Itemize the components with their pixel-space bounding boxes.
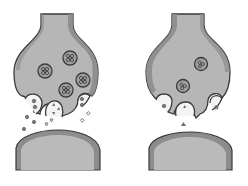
vesicle	[195, 58, 208, 71]
diagram-svg	[0, 0, 248, 186]
right-released-molecules	[181, 122, 186, 126]
synapse-diagram	[0, 0, 248, 186]
vesicle	[177, 80, 190, 93]
vesicle	[63, 51, 77, 65]
left-synapse	[14, 14, 100, 170]
right-postsynaptic-cell	[149, 132, 232, 170]
vesicle	[59, 83, 73, 97]
vesicle	[38, 64, 52, 78]
right-synapse	[146, 14, 232, 170]
left-postsynaptic-cell	[16, 130, 100, 170]
vesicle	[76, 73, 90, 87]
